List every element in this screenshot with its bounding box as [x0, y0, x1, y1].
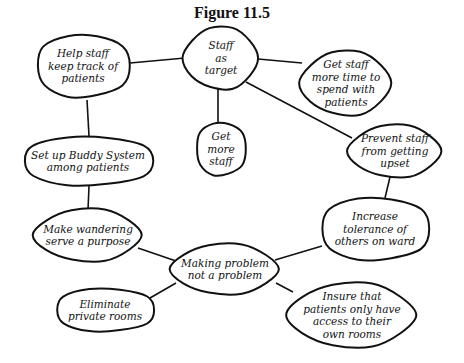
node-staff-as-target: Staff as target: [184, 27, 258, 89]
edge-make-wandering-purpose-to-making-problem-not-problem: [138, 248, 176, 261]
node-get-more-staff: Get more staff: [196, 122, 246, 176]
edge-increase-tolerance-to-making-problem-not-problem: [275, 246, 322, 260]
node-eliminate-private-rooms: Eliminate private rooms: [55, 288, 155, 332]
node-help-staff-keep-track: Help staff keep track of patients: [36, 34, 130, 98]
node-get-staff-more-time: Get staff more time to spend with patien…: [301, 51, 391, 115]
node-prevent-staff-upset: Prevent staff from getting upset: [349, 125, 441, 177]
edge-staff-as-target-to-help-staff-keep-track: [130, 58, 185, 63]
edge-help-staff-keep-track-to-buddy-system: [87, 100, 89, 136]
node-increase-tolerance: Increase tolerance of others on ward: [320, 197, 430, 261]
edge-buddy-system-to-make-wandering-purpose: [88, 186, 89, 210]
edge-prevent-staff-upset-to-increase-tolerance: [385, 177, 390, 198]
node-making-problem-not-problem: Making problem not a problem: [172, 244, 278, 294]
edge-staff-as-target-to-get-staff-more-time: [258, 59, 302, 63]
node-insure-access-own-rooms: Insure that patients only have access to…: [289, 283, 415, 347]
node-make-wandering-purpose: Make wandering serve a purpose: [35, 209, 141, 261]
node-buddy-system: Set up Buddy System among patients: [22, 136, 154, 186]
